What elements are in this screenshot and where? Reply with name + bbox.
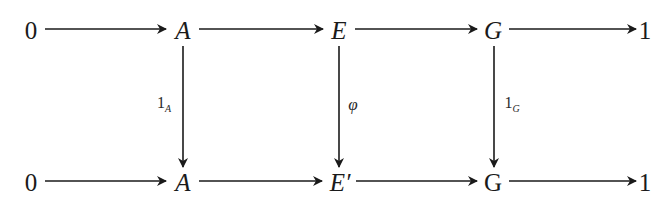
label-phi: φ (348, 96, 357, 113)
commutative-diagram: 0 A E G 1 0 A E′ G 1 1A φ 1G (0, 0, 666, 206)
node-bottom-one: 1 (639, 170, 652, 195)
node-top-G: G (484, 18, 502, 43)
label-identity-G: 1G (504, 95, 519, 114)
node-bottom-zero: 0 (25, 170, 38, 195)
node-top-one: 1 (639, 18, 652, 43)
node-top-zero: 0 (25, 18, 38, 43)
node-bottom-A: A (175, 170, 190, 195)
label-identity-A-sub: A (165, 103, 171, 114)
node-bottom-Eprime: E′ (330, 170, 351, 195)
label-identity-G-sub: G (512, 103, 519, 114)
label-identity-G-main: 1 (504, 94, 512, 111)
node-top-A: A (175, 18, 190, 43)
node-top-E: E (331, 18, 346, 43)
label-identity-A-main: 1 (157, 94, 165, 111)
node-bottom-G: G (484, 170, 502, 195)
label-identity-A: 1A (157, 95, 171, 114)
